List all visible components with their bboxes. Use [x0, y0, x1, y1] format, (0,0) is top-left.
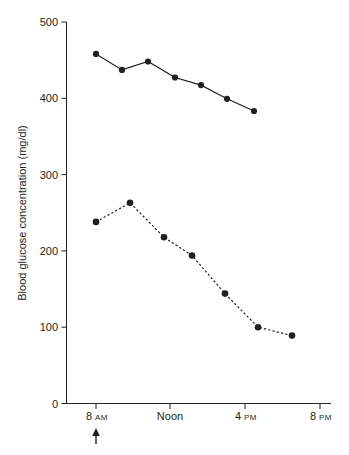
- upper-series-point: [172, 74, 178, 80]
- y-axis: 500 400 300 200 100 0 Blood glucose conc…: [16, 16, 67, 410]
- time-marker-arrow-icon: [92, 428, 100, 444]
- chart-figure: 500 400 300 200 100 0 Blood glucose conc…: [0, 0, 349, 455]
- x-tick-label-8am-meridiem: AM: [95, 413, 108, 422]
- lower-series-point: [255, 324, 262, 331]
- upper-series-point: [93, 51, 99, 57]
- lower-series-point: [161, 234, 168, 241]
- y-tick-label-200: 200: [40, 245, 58, 257]
- upper-series-point: [119, 67, 125, 73]
- x-tick-label-8pm: 8 PM: [310, 410, 332, 422]
- lower-series-point: [93, 219, 100, 226]
- upper-series-point: [224, 96, 230, 102]
- y-axis-title: Blood glucose concentration (mg/dl): [16, 125, 28, 300]
- lower-series-point: [222, 290, 229, 297]
- y-tick-label-300: 300: [40, 169, 58, 181]
- x-tick-label-noon-main: Noon: [157, 410, 183, 422]
- lower-dashed-series-line: [96, 203, 292, 336]
- x-tick-label-8pm-meridiem: PM: [319, 413, 332, 422]
- lower-dashed-series: [93, 200, 296, 339]
- lower-series-point: [127, 200, 134, 207]
- y-tick-label-400: 400: [40, 92, 58, 104]
- upper-solid-series: [93, 51, 257, 114]
- upper-series-point: [145, 58, 151, 64]
- blood-glucose-line-chart: 500 400 300 200 100 0 Blood glucose conc…: [0, 0, 349, 455]
- y-tick-label-500: 500: [40, 16, 58, 28]
- y-tick-label-100: 100: [40, 321, 58, 333]
- x-tick-label-noon: Noon: [157, 410, 183, 422]
- x-tick-label-4pm-meridiem: PM: [244, 413, 257, 422]
- x-tick-label-8am: 8 AM: [86, 410, 108, 422]
- lower-series-point: [289, 332, 296, 339]
- time-marker-arrow-head: [92, 428, 100, 436]
- y-tick-label-0: 0: [52, 398, 58, 410]
- upper-series-point: [251, 108, 257, 114]
- x-tick-label-8pm-main: 8: [310, 410, 316, 422]
- x-tick-label-4pm: 4 PM: [235, 410, 257, 422]
- upper-solid-series-line: [96, 54, 254, 111]
- upper-series-point: [198, 82, 204, 88]
- lower-series-point: [189, 252, 196, 259]
- x-tick-label-8am-main: 8: [86, 410, 92, 422]
- x-axis: 8 AM Noon 4 PM 8 PM: [67, 404, 332, 423]
- x-tick-label-4pm-main: 4: [235, 410, 241, 422]
